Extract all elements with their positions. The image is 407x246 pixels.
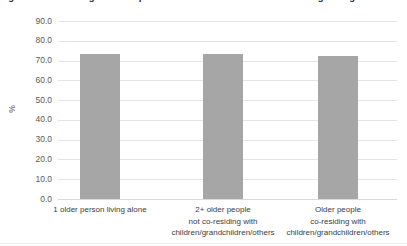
category-label-line: Older people — [272, 204, 404, 216]
y-axis-tick-label: 20.0 — [6, 155, 52, 164]
category-label-line: 2+ older people — [157, 204, 289, 216]
y-axis-tick-label: 90.0 — [6, 17, 52, 26]
y-axis-tick-label: 60.0 — [6, 76, 52, 85]
x-axis-category-label: Older peopleco-residing withchildren/gra… — [272, 204, 404, 239]
gridline — [58, 41, 397, 42]
bottom-rule — [0, 243, 407, 244]
bar — [203, 54, 243, 199]
y-axis-tick-label: 0.0 — [6, 195, 52, 204]
y-axis-tick-label: 40.0 — [6, 115, 52, 124]
gridline — [58, 199, 397, 200]
y-axis-tick-label: 80.0 — [6, 36, 52, 45]
category-label-line: not co-residing with — [157, 216, 289, 228]
bar — [318, 56, 358, 199]
category-label-line: children/grandchildren/others — [157, 227, 289, 239]
bar-chart: % 90.080.070.060.050.040.030.020.010.00.… — [0, 0, 407, 246]
category-label-line: co-residing with — [272, 216, 404, 228]
category-label-line: children/grandchildren/others — [272, 227, 404, 239]
gridline — [58, 21, 397, 22]
x-axis-category-label: 1 older person living alone — [25, 204, 175, 216]
y-axis-tick-label: 50.0 — [6, 96, 52, 105]
x-axis-category-label: 2+ older peoplenot co-residing withchild… — [157, 204, 289, 239]
y-axis-tick-label: 30.0 — [6, 135, 52, 144]
bar — [80, 54, 120, 199]
plot-region — [58, 21, 397, 199]
y-axis-tick-labels: 90.080.070.060.050.040.030.020.010.00.0 — [0, 21, 52, 199]
category-label-line: 1 older person living alone — [25, 204, 175, 216]
y-axis-tick-label: 10.0 — [6, 175, 52, 184]
y-axis-tick-label: 70.0 — [6, 56, 52, 65]
